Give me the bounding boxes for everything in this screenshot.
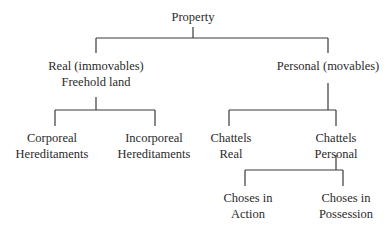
- node-choses-in-action: Choses in Action: [224, 190, 273, 222]
- node-label-line2: Real: [211, 146, 252, 162]
- node-chattels-personal: Chattels Personal: [314, 130, 357, 162]
- node-real: Real (immovables) Freehold land: [48, 58, 143, 90]
- node-label-line2: Personal: [314, 146, 357, 162]
- node-label-line1: Choses in: [224, 190, 273, 206]
- node-incorporeal-hereditaments: Incorporeal Hereditaments: [118, 130, 191, 162]
- node-label-line2: Possession: [319, 206, 373, 222]
- node-chattels-real: Chattels Real: [211, 130, 252, 162]
- node-label: Property: [171, 9, 214, 25]
- node-corporeal-hereditaments: Corporeal Hereditaments: [16, 130, 89, 162]
- node-label-line1: Choses in: [319, 190, 373, 206]
- node-choses-in-possession: Choses in Possession: [319, 190, 373, 222]
- node-label-line1: Incorporeal: [118, 130, 191, 146]
- node-label-line1: Corporeal: [16, 130, 89, 146]
- node-label-line2: Hereditaments: [118, 146, 191, 162]
- node-personal: Personal (movables): [277, 58, 379, 74]
- node-label-line2: Freehold land: [48, 74, 143, 90]
- node-label-line1: Chattels: [211, 130, 252, 146]
- node-property: Property: [171, 9, 214, 25]
- node-label-line1: Real (immovables): [48, 58, 143, 74]
- node-label-line1: Chattels: [314, 130, 357, 146]
- node-label-line2: Action: [224, 206, 273, 222]
- node-label: Personal (movables): [277, 58, 379, 74]
- node-label-line2: Hereditaments: [16, 146, 89, 162]
